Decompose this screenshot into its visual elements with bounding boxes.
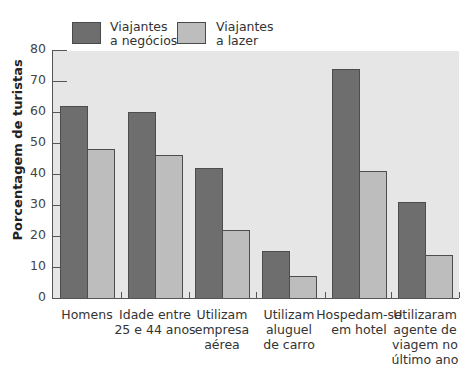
y-tick-label: 0: [18, 290, 46, 304]
y-tick-mark: [52, 50, 67, 51]
x-category-label-line: Utilizaram: [380, 307, 470, 322]
x-group-separator: [391, 292, 392, 298]
bar-leisure: [222, 230, 250, 299]
legend-label-leisure: Viajantes a lazer: [216, 20, 274, 48]
bar-leisure: [87, 149, 115, 299]
legend-label-business: Viajantes a negócios: [110, 20, 177, 48]
y-axis-label: Porcentagem de turistas: [10, 111, 25, 241]
y-tick-label: 80: [18, 42, 46, 56]
bar-business: [262, 251, 290, 299]
bar-business: [332, 69, 360, 299]
legend-leisure-line2: a lazer: [216, 34, 274, 48]
legend-swatch-leisure: [177, 22, 206, 44]
x-category-label-line: último ano: [380, 352, 470, 367]
y-tick-mark: [52, 81, 67, 82]
bar-leisure: [359, 171, 387, 299]
y-tick-mark: [52, 267, 60, 268]
y-tick-mark: [52, 236, 60, 237]
x-group-separator: [325, 292, 326, 298]
bar-business: [128, 112, 156, 299]
bar-leisure: [155, 155, 183, 299]
bar-leisure: [425, 255, 453, 299]
legend-business-line1: Viajantes: [110, 20, 177, 34]
x-category-label-line: agente de: [380, 322, 470, 337]
y-tick-mark: [52, 205, 60, 206]
x-group-separator: [459, 292, 460, 298]
x-axis-line: [52, 298, 459, 299]
legend-leisure-line1: Viajantes: [216, 20, 274, 34]
x-category-label-line: viagem no: [380, 337, 470, 352]
legend-swatch-business: [72, 22, 101, 44]
y-tick-mark: [52, 298, 60, 299]
y-axis-line: [52, 51, 53, 299]
bar-business: [398, 202, 426, 299]
y-tick-label: 10: [18, 259, 46, 273]
x-category-label: Utilizaramagente deviagem noúltimo ano: [380, 307, 470, 367]
y-tick-mark: [52, 143, 60, 144]
y-tick-mark: [52, 112, 60, 113]
bar-business: [60, 106, 88, 299]
legend-business-line2: a negócios: [110, 34, 177, 48]
x-group-separator: [256, 292, 257, 298]
x-category-label-line: de carro: [244, 337, 334, 352]
x-group-separator: [121, 292, 122, 298]
y-tick-mark: [52, 174, 60, 175]
bar-business: [195, 168, 223, 299]
x-group-separator: [189, 292, 190, 298]
bar-leisure: [289, 276, 317, 299]
